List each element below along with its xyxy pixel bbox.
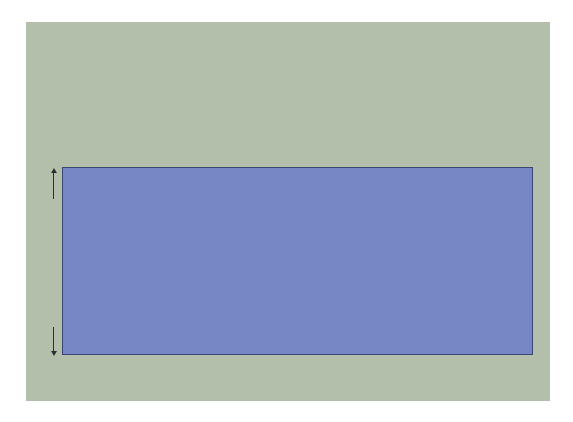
x-axis-code-labels (26, 145, 550, 163)
x-axis-category-labels (26, 22, 550, 142)
y-axis (32, 167, 62, 355)
legend-line-swatch (62, 367, 94, 377)
y-axis-down-arrow-icon (53, 327, 54, 351)
figure-root (0, 0, 573, 422)
plot-area (62, 167, 533, 355)
data-line-chart (63, 168, 532, 354)
figure-card (26, 22, 550, 401)
legend (62, 367, 101, 377)
y-axis-up-arrow-icon (53, 173, 54, 199)
